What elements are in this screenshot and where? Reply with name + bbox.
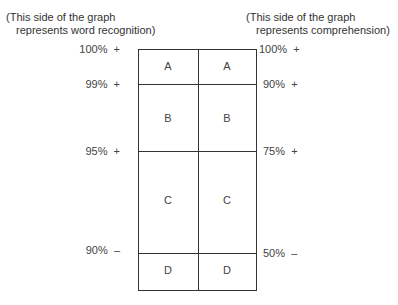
cell-left-d: D [138,264,198,276]
left-tick-100: 100% + [60,43,120,55]
center-divider [198,49,199,291]
left-tick-99: 99% + [60,78,120,90]
right-note-line2: represents comprehension) [246,24,390,37]
right-tick-90: 90% + [263,78,298,90]
left-tick-90: 90% – [60,244,120,256]
left-tick-95: 95% + [60,145,120,157]
cell-right-b: B [198,112,256,124]
cell-right-a: A [198,60,256,72]
left-border [138,49,139,291]
right-tick-50: 50% – [263,247,297,259]
divider-cd [138,253,256,254]
right-border [256,49,257,291]
right-note: (This side of the graph represents compr… [246,11,390,37]
cell-left-b: B [138,112,198,124]
left-note: (This side of the graph represents word … [6,11,155,37]
divider-ab [138,84,256,85]
top-border [138,49,256,50]
cell-right-c: C [198,194,256,206]
left-note-line2: represents word recognition) [6,24,155,37]
divider-bc [138,151,256,152]
right-tick-75: 75% + [263,145,298,157]
left-note-line1: (This side of the graph [6,11,155,24]
cell-right-d: D [198,264,256,276]
cell-left-a: A [138,60,198,72]
cell-left-c: C [138,194,198,206]
right-note-line1: (This side of the graph [246,11,390,24]
right-tick-100: 100% + [259,43,300,55]
